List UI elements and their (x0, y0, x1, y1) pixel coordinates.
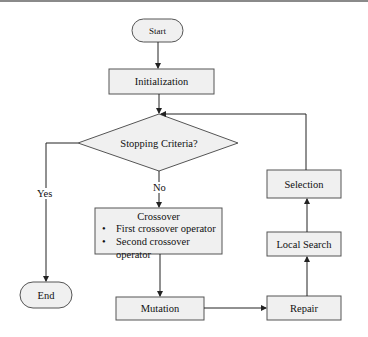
crossover-operator-item: First crossover operator (102, 222, 222, 235)
local-search-node: Local Search (267, 232, 341, 256)
crossover-title: Crossover (95, 211, 222, 222)
no-edge-label: No (152, 182, 167, 193)
crossover-operator-list: First crossover operator Second crossove… (95, 222, 222, 261)
mutation-node: Mutation (116, 297, 204, 320)
end-node: End (20, 282, 72, 308)
stopping-criteria-node: Stopping Criteria? (100, 130, 218, 156)
edge-decision-end (46, 143, 78, 281)
crossover-operator-item: Second crossover operator (102, 235, 222, 261)
selection-node: Selection (267, 170, 341, 198)
start-node: Start (132, 19, 183, 42)
repair-node: Repair (267, 296, 341, 320)
initialization-node: Initialization (109, 69, 214, 94)
yes-edge-label: Yes (36, 188, 53, 199)
crossover-node: Crossover First crossover operator Secon… (95, 208, 222, 254)
